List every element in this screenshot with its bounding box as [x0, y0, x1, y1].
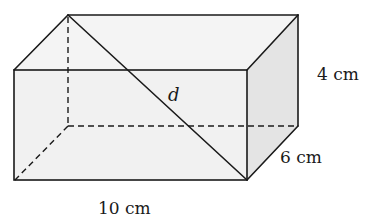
depth-label: 6 cm — [280, 147, 322, 167]
length-label: 10 cm — [98, 198, 151, 218]
prism-diagram: d 4 cm 6 cm 10 cm — [0, 0, 373, 222]
diagonal-label: d — [168, 84, 180, 105]
height-label: 4 cm — [317, 64, 359, 84]
